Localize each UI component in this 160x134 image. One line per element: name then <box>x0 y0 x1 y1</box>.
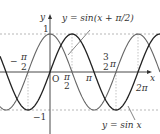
tick-neg-half-pi-num: π <box>20 52 28 62</box>
y-tick-m1: −1 <box>33 112 46 122</box>
tick-3half-pi-den: 2 <box>103 62 109 72</box>
pointer-line <box>128 106 135 120</box>
tick-half-pi-den: 2 <box>64 81 70 91</box>
tick-pi: π <box>85 73 93 83</box>
sine-graph: y x O 1 −1 − π 2 π 2 π 3 2 π 2π y = sin(… <box>0 0 160 134</box>
tick-3half-pi-suffix: π <box>109 59 117 69</box>
x-axis-label: x <box>150 73 155 83</box>
tick-neg-half-pi-sign: − <box>10 56 18 66</box>
y-axis-arrow-icon <box>48 14 52 19</box>
label-sin-x: y = sin x <box>101 120 142 130</box>
tick-neg-half-pi-den: 2 <box>21 62 27 72</box>
tick-2pi: 2π <box>135 83 149 93</box>
y-axis-label: y <box>39 12 46 22</box>
label-sin-x-plus-half-pi: y = sin(x + π/2) <box>61 13 134 23</box>
y-tick-1: 1 <box>43 24 49 34</box>
origin-label: O <box>52 74 59 84</box>
tick-3half-pi-num: 3 <box>103 52 109 62</box>
